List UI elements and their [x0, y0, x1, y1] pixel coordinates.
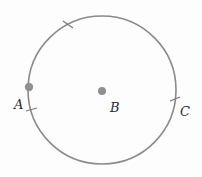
label-c: C [180, 104, 190, 119]
label-b: B [109, 100, 120, 115]
diagram-svg: A B C [0, 0, 202, 177]
point-b [98, 87, 106, 95]
circle-diagram: A B C [0, 0, 202, 177]
label-a: A [13, 97, 23, 112]
point-a [25, 83, 33, 91]
